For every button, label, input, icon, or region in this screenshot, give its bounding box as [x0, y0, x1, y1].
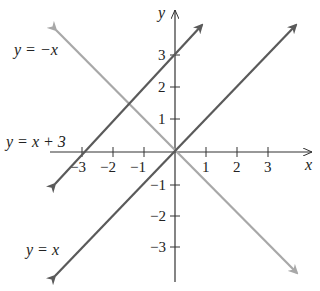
x-tick-label: 2 — [233, 159, 241, 175]
y-tick-label: −2 — [150, 208, 166, 224]
y-tick-label: 2 — [158, 79, 166, 95]
label-y-x: y = x — [24, 241, 59, 259]
x-tick-label: 1 — [202, 159, 210, 175]
label-y-x-plus-3: y = x + 3 — [4, 133, 66, 151]
y-tick-label: −1 — [150, 177, 166, 193]
x-tick-label: −2 — [100, 159, 116, 175]
y-tick-label: 3 — [158, 47, 166, 63]
y-tick-label: 1 — [158, 111, 166, 127]
y-tick-label: −3 — [150, 239, 166, 255]
x-axis-label: x — [304, 156, 312, 173]
line-y-x-plus-3 — [55, 25, 202, 184]
label-y-neg-x: y = −x — [12, 41, 58, 59]
x-tick-label: −1 — [130, 159, 146, 175]
x-tick-label: 3 — [264, 159, 272, 175]
coordinate-plane: −3 −2 −1 1 2 3 3 2 1 −1 −2 −3 x y y = −x… — [0, 0, 320, 291]
x-tick-label: −3 — [70, 159, 86, 175]
y-axis-label: y — [156, 4, 166, 22]
